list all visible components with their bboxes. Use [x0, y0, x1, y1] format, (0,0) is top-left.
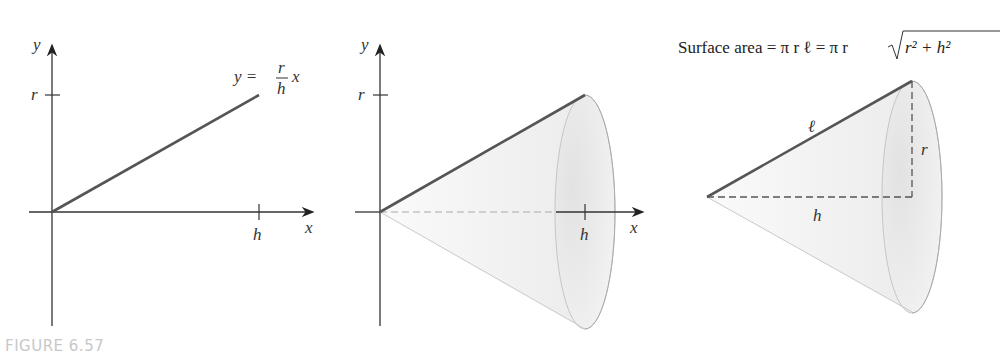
figure-canvas: y x r h y = r h x y x r h — [0, 0, 1005, 362]
panel-cone-of-revolution: y x r h — [355, 35, 642, 329]
tick-h-label: h — [580, 225, 589, 244]
panel-cone-surface-area: ℓ r h Surface area = π r ℓ = π r r² + h² — [678, 31, 1000, 313]
radius-label: r — [921, 140, 928, 159]
equation-label: y = r h x — [232, 58, 300, 98]
equation-numerator: r — [278, 58, 285, 77]
tick-r-label: r — [358, 85, 365, 104]
equation-lhs: y = — [232, 67, 257, 86]
height-label: h — [813, 206, 822, 225]
slant-label: ℓ — [808, 117, 815, 136]
surface-area-formula: Surface area = π r ℓ = π r r² + h² — [678, 31, 1000, 59]
y-axis-label: y — [359, 35, 369, 54]
x-axis-label: x — [304, 218, 313, 237]
formula-text: Surface area = π r ℓ = π r — [678, 38, 848, 57]
panel-line-graph: y x r h y = r h x — [29, 35, 313, 326]
equation-denominator: h — [277, 79, 286, 98]
y-axis-label: y — [31, 35, 41, 54]
x-axis-label: x — [629, 218, 638, 237]
tick-r-label: r — [31, 85, 38, 104]
figure-caption: FIGURE 6.57 — [5, 337, 104, 355]
line-y-equals-rx-over-h — [52, 95, 259, 212]
tick-h-label: h — [253, 225, 262, 244]
equation-var: x — [291, 67, 300, 86]
formula-radicand: r² + h² — [905, 38, 951, 57]
